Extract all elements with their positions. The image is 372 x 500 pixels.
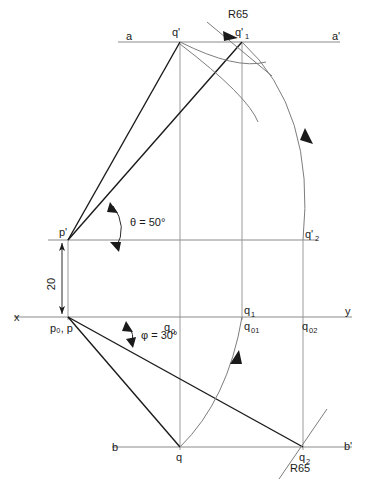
label-q0-base: q (164, 321, 170, 333)
top-view-lines-group (68, 317, 303, 447)
label-b-prime: b' (344, 440, 352, 452)
line-p-q2 (68, 317, 303, 447)
label-q01-sub: 01 (251, 326, 259, 335)
technical-drawing-canvas: 20 θ = 50° φ = 30° R65 R65 a a' x y b b'… (0, 0, 372, 500)
label-q-prime-2-base: q' (305, 228, 313, 240)
arrowhead-theta-upper (107, 202, 118, 213)
label-a-prime: a' (332, 30, 340, 42)
label-q2-sub: 2 (306, 457, 310, 466)
label-q1-base: q (244, 304, 250, 316)
arrowhead-theta-lower (110, 242, 121, 252)
dimension-20-label: 20 (45, 278, 57, 290)
label-q-prime-1-base: q' (235, 26, 243, 38)
label-q01-base: q (244, 320, 250, 332)
label-q02-base: q (302, 320, 308, 332)
projection-lines-group (68, 42, 303, 450)
orthographic-projection-drawing: 20 θ = 50° φ = 30° R65 R65 a a' x y b b'… (0, 0, 372, 500)
radius-annotations-group: R65 R65 (228, 8, 310, 474)
label-b: b (112, 441, 118, 453)
line-p-prime-q-prime-1 (68, 42, 242, 240)
dimension-20-group: 20 (45, 243, 62, 314)
arc-q-prime-1-to-q-prime-2 (242, 42, 305, 240)
front-view-lines-group (68, 42, 242, 240)
line-p-prime-q-prime (68, 42, 180, 240)
label-q0-sub: 0 (171, 327, 175, 336)
angle-theta-label: θ = 50° (130, 216, 165, 228)
label-q-prime-2-sub: 2 (315, 234, 319, 243)
label-p-prime: p' (59, 226, 67, 238)
arc-q-prime-sweep (180, 44, 258, 122)
label-q-prime: q' (172, 26, 180, 38)
arrowhead-arc-top-right (300, 128, 313, 144)
label-a: a (126, 30, 133, 42)
arc-q-to-q1 (180, 317, 242, 447)
label-q: q (176, 451, 182, 463)
label-q2-base: q (299, 451, 305, 463)
arcs-group (180, 22, 327, 479)
label-p0-p: p₀, p (50, 322, 73, 334)
arrowhead-phi-lower (126, 337, 136, 348)
radius-label-top: R65 (228, 8, 248, 20)
arc-arrowheads-group (223, 31, 313, 364)
reference-lines-group (14, 42, 352, 447)
arrowhead-phi-upper (122, 321, 133, 332)
label-q1-sub: 1 (251, 310, 255, 319)
label-q02-sub: 02 (309, 326, 317, 335)
label-x: x (14, 311, 20, 323)
point-labels-group: a a' x y b b' q' q' 1 p' q' 2 p₀, p q 0 … (14, 26, 352, 466)
arrowhead-arc-bottom (230, 350, 242, 364)
angle-theta-group: θ = 50° (107, 202, 165, 252)
label-q-prime-1-sub: 1 (245, 32, 249, 41)
label-y: y (345, 305, 351, 317)
